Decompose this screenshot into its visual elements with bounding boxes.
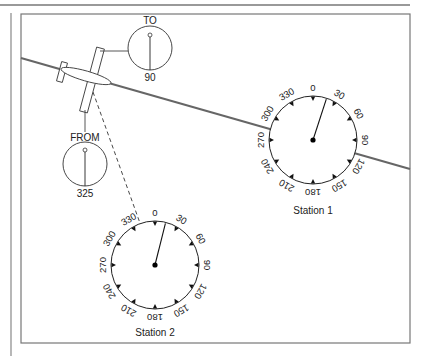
tick-label: 0 (152, 207, 157, 218)
tick-label: 0 (310, 82, 315, 93)
tick-label: 180 (147, 312, 163, 323)
from-label: FROM (70, 132, 99, 143)
station-2-dial: 0306090120150180210240270300330 (97, 207, 214, 324)
to-label: TO (143, 15, 157, 26)
tick-label: 90 (202, 260, 213, 271)
tick-label: 30 (332, 87, 347, 102)
tick-label: 90 (360, 135, 371, 146)
tick-label: 60 (351, 106, 366, 121)
station-2-label: Station 2 (135, 327, 175, 338)
aircraft-icon (57, 47, 113, 113)
vor-diagram: TO 90 FROM 325 0306090120150180210240270… (0, 0, 427, 356)
station-center-dot (152, 262, 157, 267)
from-value: 325 (77, 188, 94, 199)
from-indicator: FROM 325 (63, 132, 107, 199)
tick-label: 180 (305, 187, 321, 198)
to-indicator: TO 90 (128, 15, 172, 83)
to-pivot (148, 33, 152, 37)
tick-label: 270 (255, 132, 266, 148)
station-center-dot (310, 137, 315, 142)
tick-label: 270 (97, 257, 108, 273)
tick-label: 60 (193, 231, 208, 246)
to-value: 90 (144, 72, 156, 83)
tick-label: 30 (174, 212, 189, 227)
from-pivot (83, 148, 87, 152)
station-1-dial: 0306090120150180210240270300330 (255, 82, 372, 199)
station-1-label: Station 1 (293, 205, 333, 216)
